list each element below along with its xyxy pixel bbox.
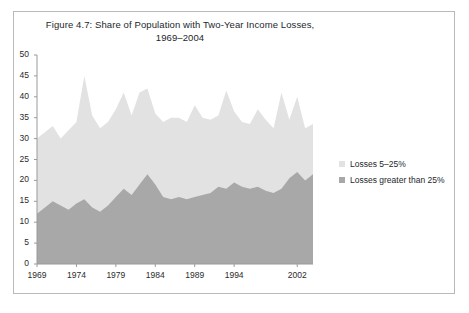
y-axis-tick-label: 0: [7, 258, 29, 268]
y-axis-tick-label: 40: [7, 91, 29, 101]
x-axis-tick-label: 1979: [96, 270, 136, 280]
x-axis-tick-label: 1969: [17, 270, 57, 280]
y-axis-tick-label: 5: [7, 237, 29, 247]
x-axis-tick-label: 1994: [214, 270, 254, 280]
y-axis-tick-label: 20: [7, 174, 29, 184]
legend-item-label: Losses greater than 25%: [350, 175, 445, 185]
legend-item-label: Losses 5–25%: [350, 159, 406, 169]
series-layer: [37, 76, 313, 264]
x-axis-tick-label: 1989: [175, 270, 215, 280]
legend-item: Losses greater than 25%: [339, 173, 463, 187]
x-axis-tick-label: 2002: [277, 270, 317, 280]
legend-item: Losses 5–25%: [339, 157, 463, 171]
y-axis-tick-label: 25: [7, 154, 29, 164]
x-axis-tick-label: 1984: [135, 270, 175, 280]
y-axis-tick-label: 10: [7, 216, 29, 226]
y-axis-tick-label: 45: [7, 70, 29, 80]
figure-page: Figure 4.7: Share of Population with Two…: [0, 0, 469, 313]
y-axis-tick-label: 50: [7, 49, 29, 59]
chart-legend: Losses 5–25%Losses greater than 25%: [339, 157, 463, 189]
y-axis-tick-label: 35: [7, 112, 29, 122]
legend-swatch-dark-icon: [339, 177, 345, 183]
legend-swatch-light-icon: [339, 161, 345, 167]
y-axis-tick-label: 15: [7, 195, 29, 205]
y-axis-tick-label: 30: [7, 133, 29, 143]
x-axis-tick-label: 1974: [56, 270, 96, 280]
